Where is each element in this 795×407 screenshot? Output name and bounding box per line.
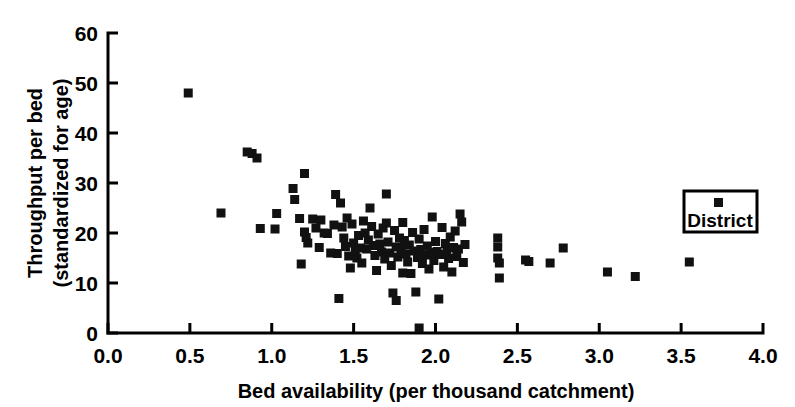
data-point <box>339 234 348 243</box>
data-point <box>451 227 460 236</box>
data-point <box>460 240 469 249</box>
data-point <box>272 209 281 218</box>
data-point <box>438 223 447 232</box>
data-point <box>439 263 448 272</box>
data-point <box>338 223 347 232</box>
data-point <box>398 269 407 278</box>
data-point <box>331 190 340 199</box>
data-point <box>308 215 317 224</box>
y-axis-tick-labels: 0102030405060 <box>75 22 98 345</box>
legend-label: District <box>687 210 753 231</box>
data-point <box>346 264 355 273</box>
y-axis-title-line2: (standardized for age) <box>50 79 72 288</box>
data-point <box>384 238 393 247</box>
data-point <box>347 220 356 229</box>
chart-canvas: 0102030405060 0.00.51.01.52.02.53.03.54.… <box>0 0 795 407</box>
data-point <box>393 253 402 262</box>
data-point <box>333 249 342 258</box>
data-point <box>311 224 320 233</box>
data-point <box>524 257 533 266</box>
data-point <box>402 250 411 259</box>
scatter-plot-figure: 0102030405060 0.00.51.01.52.02.53.03.54.… <box>0 0 795 407</box>
data-point <box>603 268 612 277</box>
data-point <box>431 237 440 246</box>
data-point <box>559 244 568 253</box>
data-point <box>316 216 325 225</box>
data-point <box>271 225 280 234</box>
y-axis-title-line1: Throughput per bed <box>24 88 46 278</box>
data-point <box>323 229 332 238</box>
data-point <box>685 258 694 267</box>
legend[interactable]: District <box>684 191 757 232</box>
data-point <box>216 209 225 218</box>
x-tick-label: 0.0 <box>93 344 122 367</box>
data-point <box>428 213 437 222</box>
data-point <box>329 221 338 230</box>
x-tick-label: 2.0 <box>421 344 450 367</box>
x-tick-label: 4.0 <box>748 344 777 367</box>
x-tick-label: 3.0 <box>585 344 614 367</box>
data-point <box>415 235 424 244</box>
data-point <box>315 243 324 252</box>
data-point <box>434 295 443 304</box>
data-point <box>184 89 193 98</box>
y-tick-label: 50 <box>75 72 98 95</box>
data-point <box>444 254 453 263</box>
data-point <box>336 199 345 208</box>
data-point <box>398 218 407 227</box>
data-point <box>493 243 502 252</box>
data-point <box>382 219 391 228</box>
data-point <box>631 272 640 281</box>
data-point <box>300 169 309 178</box>
x-tick-label: 0.5 <box>175 344 205 367</box>
data-point <box>366 204 375 213</box>
data-point <box>297 260 306 269</box>
data-point <box>420 225 429 234</box>
y-tick-label: 10 <box>75 272 98 295</box>
data-point <box>392 296 401 305</box>
data-point <box>303 239 312 248</box>
y-tick-label: 20 <box>75 222 98 245</box>
data-point <box>424 265 433 274</box>
data-point <box>290 195 299 204</box>
y-tick-label: 40 <box>75 122 98 145</box>
data-point <box>372 266 381 275</box>
data-point <box>447 268 456 277</box>
data-point <box>375 240 384 249</box>
data-point <box>459 258 468 267</box>
y-tick-label: 0 <box>86 322 98 345</box>
data-point <box>456 210 465 219</box>
x-tick-label: 1.5 <box>339 344 369 367</box>
data-point <box>334 294 343 303</box>
data-point <box>411 288 420 297</box>
data-point <box>403 258 412 267</box>
data-point <box>253 154 262 163</box>
data-point <box>457 218 466 227</box>
data-point <box>493 234 502 243</box>
x-axis-title: Bed availability (per thousand catchment… <box>238 380 635 402</box>
x-tick-label: 1.0 <box>257 344 286 367</box>
data-point <box>382 190 391 199</box>
y-axis-title: Throughput per bed (standardized for age… <box>24 79 72 288</box>
data-point <box>289 184 298 193</box>
y-tick-label: 30 <box>75 172 98 195</box>
data-point <box>357 259 366 268</box>
data-point <box>359 217 368 226</box>
legend-marker-icon <box>714 198 723 207</box>
data-point <box>341 242 350 251</box>
x-tick-label: 2.5 <box>503 344 533 367</box>
data-point <box>256 224 265 233</box>
x-axis-tick-labels: 0.00.51.01.52.02.53.03.54.0 <box>93 344 777 367</box>
data-point <box>295 214 304 223</box>
data-point-group <box>184 89 694 333</box>
data-point <box>495 259 504 268</box>
data-point <box>495 274 504 283</box>
data-point <box>387 261 396 270</box>
data-point <box>406 269 415 278</box>
data-point <box>546 259 555 268</box>
data-point <box>415 324 424 333</box>
y-tick-label: 60 <box>75 22 98 45</box>
x-tick-label: 3.5 <box>667 344 697 367</box>
